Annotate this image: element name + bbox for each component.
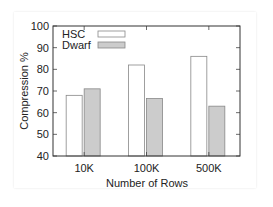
bar-dwarf-100k (147, 99, 163, 156)
bar-hsc-500k (191, 56, 207, 156)
y-tick-label: 80 (37, 63, 49, 75)
bar-chart: 40506070809010010K100K500KHSCDwarfNumber… (0, 0, 273, 207)
y-tick-label: 60 (37, 107, 49, 119)
y-tick-label: 50 (37, 128, 49, 140)
bar-hsc-10k (66, 95, 82, 156)
y-tick-label: 70 (37, 85, 49, 97)
y-tick-label: 90 (37, 42, 49, 54)
x-tick-label: 10K (74, 162, 94, 174)
legend-label-dwarf: Dwarf (62, 39, 92, 51)
y-tick-label: 100 (31, 20, 49, 32)
legend-swatch-hsc (98, 31, 125, 37)
bar-dwarf-10k (84, 89, 100, 156)
x-tick-label: 100K (134, 162, 160, 174)
legend-swatch-dwarf (98, 42, 125, 48)
x-tick-label: 500K (196, 162, 222, 174)
bar-hsc-100k (129, 65, 145, 156)
x-axis-label: Number of Rows (106, 177, 188, 189)
bar-dwarf-500k (209, 106, 225, 156)
y-tick-label: 40 (37, 150, 49, 162)
y-axis-label: Compression % (18, 52, 30, 130)
